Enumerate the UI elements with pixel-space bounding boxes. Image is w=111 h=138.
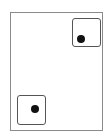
dot-icon — [77, 35, 85, 43]
bottom-left-cell — [17, 95, 46, 125]
top-right-cell — [72, 18, 101, 47]
dot-icon — [31, 105, 39, 113]
